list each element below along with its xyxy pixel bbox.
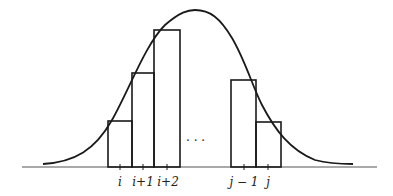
histogram-diagram: · · · i i+1 i+2 j − 1 j [0, 0, 393, 196]
tick-label-i: i [118, 175, 122, 189]
bar-i-plus-1 [132, 73, 154, 167]
tick-label-j-minus-1: j − 1 [226, 175, 258, 189]
bar-j-minus-1 [231, 80, 256, 167]
tick-label-i-plus-1: i+1 [132, 175, 154, 189]
tick-label-i-plus-2: i+2 [157, 175, 179, 189]
ellipsis: · · · [186, 134, 205, 148]
bar-i-plus-2 [154, 30, 180, 167]
bar-i [108, 121, 132, 167]
tick-label-j: j [263, 175, 270, 189]
